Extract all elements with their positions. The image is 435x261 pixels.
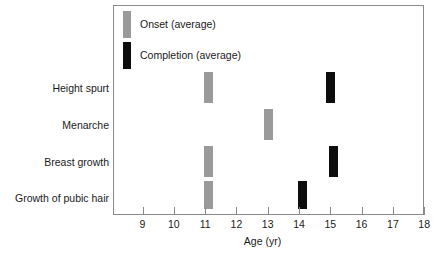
category-axis-labels: Height spurt Menarche Breast growth Grow… (0, 0, 109, 261)
category-label-height-spurt: Height spurt (0, 82, 109, 94)
x-axis-tick-label: 17 (381, 218, 405, 231)
category-label-breast-growth: Breast growth (0, 156, 109, 168)
puberty-timeline-chart: Onset (average) Completion (average) Hei… (0, 0, 435, 261)
category-label-menarche: Menarche (0, 119, 109, 131)
x-axis-tick (424, 207, 425, 215)
x-axis-tick (268, 207, 269, 215)
legend-label-onset: Onset (average) (140, 18, 216, 30)
x-axis-tick (330, 207, 331, 215)
x-axis-tick-label: 11 (193, 218, 217, 231)
category-label-pubic-hair: Growth of pubic hair (0, 192, 109, 204)
x-axis-tick-label: 18 (412, 218, 435, 231)
x-axis-tick-label: 12 (224, 218, 248, 231)
x-axis-tick-label: 14 (287, 218, 311, 231)
legend-swatch-onset-icon (123, 11, 131, 38)
x-axis-tick (236, 207, 237, 215)
x-axis-tick (299, 207, 300, 215)
x-axis-tick (174, 207, 175, 215)
x-axis-tick (362, 207, 363, 215)
x-axis-title: Age (yr) (0, 235, 435, 248)
x-axis-tick-label: 16 (350, 218, 374, 231)
x-axis-tick (393, 207, 394, 215)
x-axis-tick-label: 10 (162, 218, 186, 231)
x-axis-tick-label: 15 (318, 218, 342, 231)
x-axis-tick-label: 9 (131, 218, 155, 231)
legend-swatch-completion-icon (123, 42, 131, 69)
legend-label-completion: Completion (average) (140, 49, 241, 61)
x-axis-tick (143, 207, 144, 215)
chart-legend: Onset (average) Completion (average) (123, 11, 283, 71)
x-axis-tick-label: 13 (256, 218, 280, 231)
x-axis-tick (205, 207, 206, 215)
